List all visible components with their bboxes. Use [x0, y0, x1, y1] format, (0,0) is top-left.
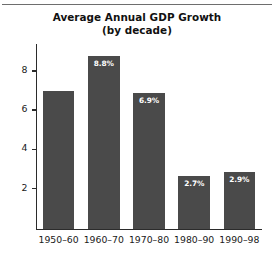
bar[interactable]: 2.7%	[178, 176, 210, 229]
bar-group: 2.7%	[178, 176, 210, 229]
x-axis-tick-label: 1980–90	[172, 234, 217, 246]
bar-group: 6.9%	[133, 93, 165, 229]
bar-value-label: 2.9%	[224, 175, 256, 184]
bar-group	[43, 91, 75, 228]
x-axis-tick-label: 1950–60	[36, 234, 81, 246]
x-axis-tick-label: 1970–80	[126, 234, 171, 246]
plot-area: 2468 8.8%6.9%2.7%2.9%	[36, 44, 262, 230]
bar-value-label: 2.7%	[178, 179, 210, 188]
bar-group: 8.8%	[88, 56, 120, 229]
x-axis-labels: 1950–601960–701970–801980–901990–98	[36, 234, 262, 250]
bar[interactable]	[43, 91, 75, 228]
bar[interactable]: 2.9%	[224, 172, 256, 229]
bar[interactable]: 8.8%	[88, 56, 120, 229]
chart-title-block: Average Annual GDP Growth (by decade)	[0, 11, 274, 36]
chart-subtitle: (by decade)	[0, 24, 274, 37]
top-divider-rule	[2, 4, 272, 5]
y-tick-label: 4	[22, 142, 28, 154]
chart-title: Average Annual GDP Growth	[0, 11, 274, 24]
x-axis-tick-label: 1990–98	[217, 234, 262, 246]
bar-value-label: 6.9%	[133, 96, 165, 105]
y-tick-label: 8	[22, 64, 28, 76]
x-axis-line	[36, 229, 262, 230]
y-tick-label: 6	[22, 103, 28, 115]
x-axis-tick-label: 1960–70	[81, 234, 126, 246]
bars-layer: 8.8%6.9%2.7%2.9%	[36, 44, 262, 229]
y-tick-label: 2	[22, 182, 28, 194]
gdp-growth-bar-chart: Average Annual GDP Growth (by decade) 24…	[0, 0, 274, 253]
bar[interactable]: 6.9%	[133, 93, 165, 229]
bar-value-label: 8.8%	[88, 59, 120, 68]
bar-group: 2.9%	[224, 172, 256, 229]
